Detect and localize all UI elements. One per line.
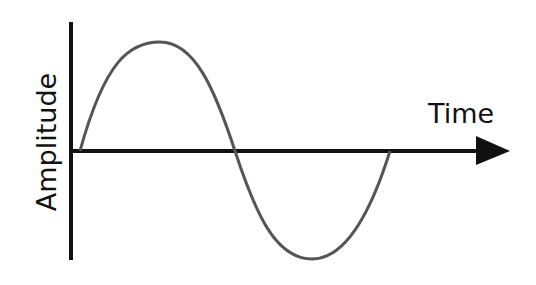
sine-wave-diagram — [0, 0, 536, 285]
y-axis-label: Amplitude — [31, 73, 62, 211]
arrow-right-icon — [476, 136, 510, 165]
x-axis-label: Time — [428, 98, 494, 129]
